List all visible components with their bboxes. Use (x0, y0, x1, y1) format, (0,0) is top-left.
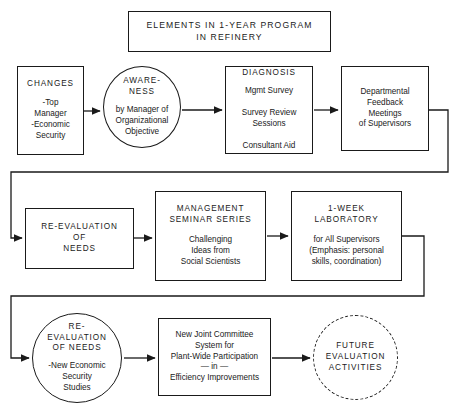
diagram-title-box: ELEMENTS IN 1-YEAR PROGRAM IN REFINERY (128, 11, 331, 52)
node-future-evaluation-activities-heading: FUTURE EVALUATION ACTIVITIES (326, 341, 386, 373)
node-awareness: AWARE- NESS by Manager of Organizational… (103, 66, 181, 148)
node-changes: CHANGES -Top Manager -Economic Security (17, 66, 84, 155)
node-changes-body: -Top Manager -Economic Security (31, 98, 70, 142)
node-departmental-feedback: Departmental Feedback Meetings of Superv… (341, 66, 429, 151)
node-awareness-body: by Manager of Organizational Objective (116, 105, 169, 138)
node-management-seminar-series: MANAGEMENT SEMINAR SERIES Challenging Id… (155, 191, 266, 281)
node-departmental-feedback-body: Departmental Feedback Meetings of Superv… (359, 87, 411, 131)
node-one-week-laboratory-body: for All Supervisors (Emphasis: personal … (309, 235, 384, 268)
node-diagnosis-heading: DIAGNOSIS (242, 68, 296, 79)
node-awareness-heading: AWARE- NESS (123, 76, 161, 98)
node-diagnosis: DIAGNOSIS Mgmt Survey Survey Review Sess… (225, 66, 313, 154)
node-re-evaluation-of-needs-1-heading: RE-EVALUATION OF NEEDS (41, 222, 117, 254)
node-new-joint-committee-body: New Joint Committee System for Plant-Wid… (170, 330, 259, 385)
diagram-title-label: ELEMENTS IN 1-YEAR PROGRAM IN REFINERY (146, 20, 312, 43)
node-re-evaluation-of-needs-2-heading: RE- EVALUATION OF NEEDS (47, 322, 107, 354)
node-re-evaluation-of-needs-2-body: -New Economic Security Studies (48, 361, 105, 394)
node-diagnosis-body: Mgmt Survey Survey Review Sessions Consu… (242, 86, 297, 152)
node-changes-heading: CHANGES (27, 79, 74, 90)
node-management-seminar-series-heading: MANAGEMENT SEMINAR SERIES (169, 204, 251, 226)
node-re-evaluation-of-needs-1: RE-EVALUATION OF NEEDS (25, 208, 134, 269)
node-re-evaluation-of-needs-2: RE- EVALUATION OF NEEDS -New Economic Se… (32, 313, 122, 403)
node-management-seminar-series-body: Challenging Ideas from Social Scientists (181, 235, 241, 268)
node-one-week-laboratory-heading: 1-WEEK LABORATORY (314, 204, 378, 226)
flowchart-canvas: ELEMENTS IN 1-YEAR PROGRAM IN REFINERY C… (0, 0, 455, 413)
node-future-evaluation-activities: FUTURE EVALUATION ACTIVITIES (313, 315, 398, 400)
node-new-joint-committee: New Joint Committee System for Plant-Wid… (158, 318, 271, 396)
node-one-week-laboratory: 1-WEEK LABORATORY for All Supervisors (E… (291, 191, 402, 281)
